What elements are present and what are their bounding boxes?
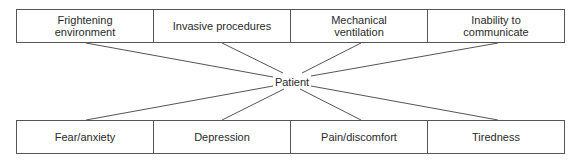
connector-invasive-procedures: [222, 43, 283, 73]
causes-row: Frightening environment Invasive procedu…: [16, 9, 565, 43]
cause-frightening-environment: Frightening environment: [17, 10, 153, 42]
connector-frightening-environment: [86, 43, 273, 77]
connector-fear-anxiety: [86, 86, 273, 120]
cause-inability-to-communicate: Inability to communicate: [427, 10, 564, 42]
effect-tiredness: Tiredness: [427, 121, 564, 153]
effect-fear-anxiety: Fear/anxiety: [17, 121, 153, 153]
effect-pain-discomfort: Pain/discomfort: [290, 121, 427, 153]
cause-invasive-procedures: Invasive procedures: [153, 10, 290, 42]
cause-mechanical-ventilation: Mechanical ventilation: [290, 10, 427, 42]
connector-tiredness: [311, 86, 498, 120]
effects-row: Fear/anxiety Depression Pain/discomfort …: [16, 120, 565, 154]
effect-depression: Depression: [153, 121, 290, 153]
patient-node: Patient: [272, 76, 312, 88]
connector-inability-to-communicate: [311, 43, 498, 76]
